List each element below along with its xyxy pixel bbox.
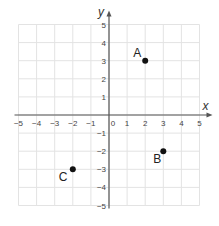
x-tick-label: 3: [161, 119, 166, 128]
x-axis-label: x: [202, 99, 210, 113]
y-tick-label: −5: [97, 202, 107, 211]
x-tick-label: 5: [197, 119, 202, 128]
y-tick-label: −3: [97, 165, 107, 174]
y-tick-label: 4: [102, 39, 107, 48]
y-axis-label: y: [97, 5, 105, 19]
coordinate-plane: xy−5−4−3−2−101234554321−1−2−3−4−5ABC: [0, 0, 219, 226]
point-label-b: B: [153, 152, 161, 166]
x-tick-label: −1: [86, 119, 96, 128]
point-label-c: C: [59, 170, 68, 184]
point-a: [142, 58, 148, 64]
x-tick-label: 4: [179, 119, 184, 128]
point-label-a: A: [133, 46, 141, 60]
point-c: [70, 166, 76, 172]
y-tick-label: −1: [97, 129, 107, 138]
y-tick-label: 2: [102, 75, 107, 84]
y-tick-label: 3: [102, 57, 107, 66]
x-tick-label: −2: [68, 119, 78, 128]
x-tick-label: 1: [125, 119, 130, 128]
x-tick-label: −5: [14, 119, 24, 128]
x-tick-label: 2: [143, 119, 148, 128]
x-axis-arrow-icon: [207, 113, 213, 118]
y-tick-label: −4: [97, 183, 107, 192]
y-tick-label: −2: [97, 147, 107, 156]
y-tick-label: 1: [102, 93, 107, 102]
y-tick-label: 5: [102, 21, 107, 30]
y-axis-arrow-icon: [107, 11, 112, 17]
x-tick-label: −4: [32, 119, 42, 128]
x-tick-label: 0: [111, 119, 116, 128]
x-tick-label: −3: [50, 119, 60, 128]
